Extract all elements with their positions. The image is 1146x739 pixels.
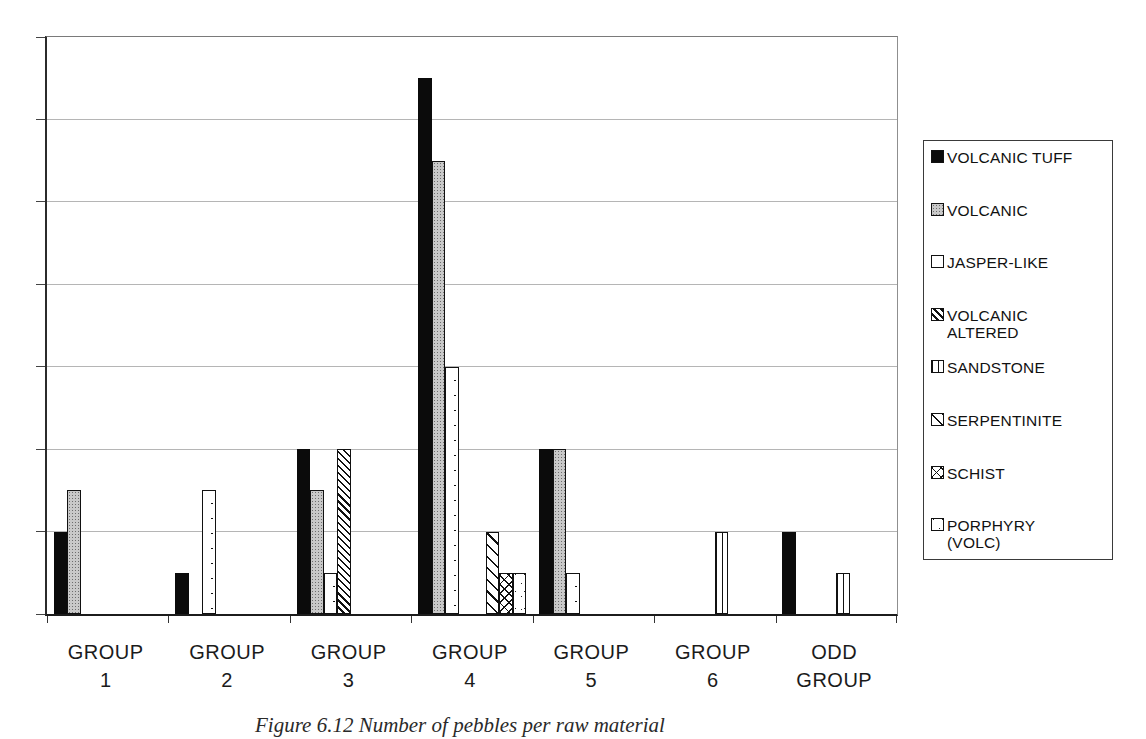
y-axis-tick (36, 201, 45, 202)
bar-volcanic-tuff-cat2 (175, 573, 189, 614)
y-axis-tick (36, 531, 45, 532)
x-label-group-5: GROUP 5 (531, 638, 652, 694)
figure-caption: Figure 6.12 Number of pebbles per raw ma… (255, 713, 665, 738)
y-axis-tick (36, 284, 45, 285)
y-axis-tick (36, 366, 45, 367)
legend-box: VOLCANIC TUFFVOLCANICJASPER-LIKEVOLCANIC… (923, 140, 1113, 560)
y-axis-tick (36, 614, 45, 615)
bar-volcanic-tuff-cat5 (539, 449, 553, 614)
legend-item-porphyry-volc-: PORPHYRY (VOLC) (931, 517, 1112, 570)
speckle-swatch-icon (931, 518, 944, 531)
x-axis-tick (168, 616, 169, 623)
bar-jasper-like-cat4 (445, 367, 459, 614)
legend-item-volcanic-altered: VOLCANIC ALTERED (931, 307, 1112, 360)
x-label-odd-group: ODD GROUP (774, 638, 895, 694)
light-backslash-swatch-icon (931, 413, 944, 426)
legend-label: VOLCANIC (947, 202, 1028, 219)
legend-item-jasper-like: JASPER-LIKE (931, 254, 1112, 307)
bar-jasper-like-cat2 (202, 490, 216, 614)
x-axis-labels: GROUP 1GROUP 2GROUP 3GROUP 4GROUP 5GROUP… (45, 638, 895, 708)
x-label-group-6: GROUP 6 (652, 638, 773, 694)
gridline-y-12 (47, 119, 897, 120)
crosshatch-swatch-icon (931, 466, 944, 479)
vertical-lines-swatch-icon (931, 360, 944, 373)
legend-item-sandstone: SANDSTONE (931, 359, 1112, 412)
dense-backslash-swatch-icon (931, 308, 944, 321)
legend-item-schist: SCHIST (931, 465, 1112, 518)
legend-item-serpentinite: SERPENTINITE (931, 412, 1112, 465)
bar-volcanic-tuff-cat7 (782, 532, 796, 614)
y-axis-tick (36, 37, 45, 38)
gridline-y-10 (47, 201, 897, 202)
bar-jasper-like-cat3 (324, 573, 338, 614)
legend-label: SANDSTONE (947, 359, 1045, 376)
legend-label: SCHIST (947, 465, 1005, 482)
x-label-group-2: GROUP 2 (166, 638, 287, 694)
bar-volcanic-altered-cat3 (337, 449, 351, 614)
scanned-page: { "caption": "Figure 6.12 Number of pebb… (0, 0, 1146, 739)
gridline-y-4 (47, 449, 897, 450)
bar-volcanic-tuff-cat3 (297, 449, 311, 614)
legend-label: JASPER-LIKE (947, 254, 1048, 271)
legend-label: PORPHYRY (VOLC) (947, 517, 1035, 551)
bar-jasper-like-cat5 (566, 573, 580, 614)
bar-volcanic-cat1 (67, 490, 81, 614)
solid-black-swatch-icon (931, 150, 944, 163)
bar-sandstone-cat7 (836, 573, 850, 614)
bar-schist-cat4 (499, 573, 513, 614)
bar-volcanic-tuff-cat1 (54, 532, 68, 614)
x-axis-tick (47, 616, 48, 623)
sparse-dots-swatch-icon (931, 255, 944, 268)
y-axis-tick (36, 449, 45, 450)
x-axis-tick (654, 616, 655, 623)
plot-area (45, 36, 898, 616)
legend-item-volcanic: VOLCANIC (931, 202, 1112, 255)
x-label-group-1: GROUP 1 (45, 638, 166, 694)
bar-volcanic-cat5 (553, 449, 567, 614)
gridline-y-8 (47, 284, 897, 285)
gray-stipple-swatch-icon (931, 203, 944, 216)
legend-label: VOLCANIC TUFF (947, 149, 1072, 166)
x-axis-tick (290, 616, 291, 623)
bar-volcanic-tuff-cat4 (418, 78, 432, 614)
gridline-y-6 (47, 366, 897, 367)
x-axis-tick (533, 616, 534, 623)
legend-item-volcanic-tuff: VOLCANIC TUFF (931, 149, 1112, 202)
bar-volcanic-cat4 (432, 161, 446, 614)
x-axis-tick (896, 616, 897, 623)
legend-label: SERPENTINITE (947, 412, 1062, 429)
gridline-y-2 (47, 531, 897, 532)
bar-volcanic-cat3 (310, 490, 324, 614)
x-axis-tick (776, 616, 777, 623)
x-label-group-3: GROUP 3 (288, 638, 409, 694)
legend-label: VOLCANIC ALTERED (947, 307, 1028, 341)
x-axis-tick (411, 616, 412, 623)
x-label-group-4: GROUP 4 (409, 638, 530, 694)
bar-serpentinite-cat4 (486, 532, 500, 614)
bar-porphyry-volc--cat4 (513, 573, 527, 614)
bar-sandstone-cat6 (715, 532, 729, 614)
y-axis-tick (36, 119, 45, 120)
